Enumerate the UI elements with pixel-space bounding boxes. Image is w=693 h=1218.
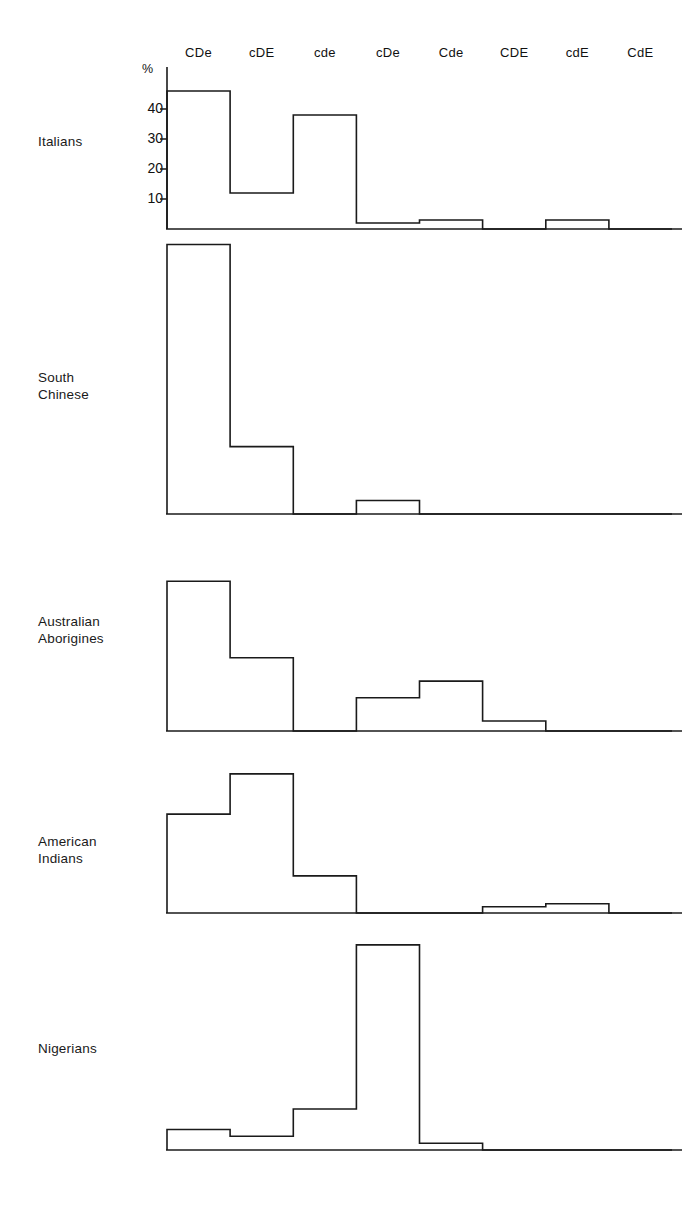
rh-haplotype-frequency-figure: CDecDEcdecDeCdeCDEcdECdE % 40302010 Ital… [0, 0, 693, 1218]
histogram-outline [167, 945, 672, 1150]
panel-plot-nigerians [0, 0, 693, 1158]
